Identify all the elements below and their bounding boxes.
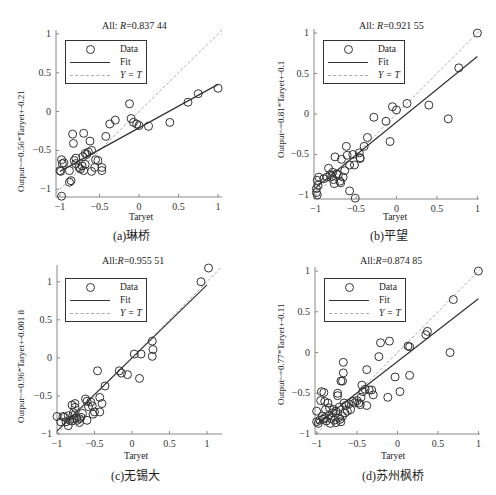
x-axis-label: Taryet xyxy=(381,451,405,461)
svg-text:1: 1 xyxy=(47,276,52,287)
svg-text:1: 1 xyxy=(304,27,309,38)
svg-text:1: 1 xyxy=(476,438,481,449)
legend: Data Fit Y = T xyxy=(65,278,147,322)
legend-item-fit: Fit xyxy=(328,56,400,69)
svg-text:0: 0 xyxy=(395,438,400,449)
legend-item-fit: Fit xyxy=(70,56,142,69)
chart-panel-a: All: R=0.837 44 −1−0.500.51−1−0.500.51 O… xyxy=(0,0,248,247)
y-axis-label: Output~=0.56*Taryet+-0.21 xyxy=(16,90,26,192)
solid-line-icon xyxy=(328,62,368,63)
x-axis-label: Taryet xyxy=(383,212,407,222)
svg-text:0.5: 0.5 xyxy=(298,306,311,317)
svg-text:−0.5: −0.5 xyxy=(85,438,103,449)
legend: Data Fit Y = T xyxy=(324,278,406,322)
svg-text:−1: −1 xyxy=(298,189,309,200)
plot-area: −1−0.500.51−1−0.500.51 xyxy=(0,0,248,247)
svg-text:1: 1 xyxy=(305,265,310,276)
svg-text:0.5: 0.5 xyxy=(431,203,444,214)
dashed-line-icon xyxy=(329,313,369,314)
chart-panel-d: All:R=0.874 85 −1−0.500.51−1−0.500.51 Ou… xyxy=(250,245,496,492)
svg-text:0: 0 xyxy=(137,201,142,212)
svg-text:0: 0 xyxy=(47,352,52,363)
svg-text:−1: −1 xyxy=(299,428,310,439)
circle-marker-icon xyxy=(86,45,95,54)
plot-area: −1−0.500.51−1−0.500.51 xyxy=(250,0,496,247)
svg-text:−0.5: −0.5 xyxy=(90,201,108,212)
svg-text:−0.5: −0.5 xyxy=(33,144,51,155)
solid-line-icon xyxy=(329,300,369,301)
dashed-line-icon xyxy=(70,75,110,76)
legend: Data Fit Y = T xyxy=(65,40,147,84)
legend: Data Fit Y = T xyxy=(323,40,405,84)
svg-text:1: 1 xyxy=(205,438,210,449)
legend-item-fit: Fit xyxy=(70,294,142,307)
y-axis-label: Output~=0.96*Taryet+-0.001 8 xyxy=(16,310,26,423)
svg-text:−1: −1 xyxy=(311,438,322,449)
svg-text:0: 0 xyxy=(304,108,309,119)
legend-item-ideal: Y = T xyxy=(70,69,142,82)
chart-panel-c: All:R=0.955 51 −1−0.500.51−1−0.500.51 Ou… xyxy=(0,245,248,492)
svg-text:−1: −1 xyxy=(55,201,66,212)
legend-item-data: Data xyxy=(70,281,142,294)
svg-text:1: 1 xyxy=(216,201,221,212)
x-axis-label: Taryet xyxy=(129,212,153,222)
legend-item-data: Data xyxy=(70,43,142,56)
svg-text:−0.5: −0.5 xyxy=(292,387,310,398)
solid-line-icon xyxy=(70,62,110,63)
legend-item-data: Data xyxy=(329,281,401,294)
y-axis-label: Output~=0.77*Taryet+-0.11 xyxy=(276,303,286,405)
svg-text:0.5: 0.5 xyxy=(297,68,310,79)
svg-text:0: 0 xyxy=(46,106,51,117)
chart-caption: (b)平望 xyxy=(370,226,408,244)
chart-caption: (d)苏州枫桥 xyxy=(362,466,424,484)
legend-item-ideal: Y = T xyxy=(328,69,400,82)
svg-text:1: 1 xyxy=(475,203,480,214)
legend-item-fit: Fit xyxy=(329,294,401,307)
svg-text:1: 1 xyxy=(46,28,51,39)
solid-line-icon xyxy=(70,300,110,301)
svg-text:−1: −1 xyxy=(310,203,321,214)
svg-text:−0.5: −0.5 xyxy=(291,148,309,159)
circle-marker-icon xyxy=(86,283,95,292)
svg-text:−1: −1 xyxy=(40,183,51,194)
legend-item-ideal: Y = T xyxy=(329,307,401,320)
svg-text:0.5: 0.5 xyxy=(432,438,445,449)
chart-caption: (c)无锡大 xyxy=(111,466,160,484)
y-axis-label: Output~=0.81*Taryet+-0.1 xyxy=(276,61,286,158)
svg-text:−1: −1 xyxy=(52,438,63,449)
svg-text:0: 0 xyxy=(305,347,310,358)
chart-caption: (a)琳桥 xyxy=(113,226,150,244)
svg-text:0.5: 0.5 xyxy=(172,201,185,212)
svg-text:0.5: 0.5 xyxy=(39,67,52,78)
svg-text:0.5: 0.5 xyxy=(40,314,53,325)
dashed-line-icon xyxy=(328,75,368,76)
svg-text:−0.5: −0.5 xyxy=(34,390,52,401)
circle-marker-icon xyxy=(345,283,354,292)
svg-text:0.5: 0.5 xyxy=(163,438,176,449)
chart-panel-b: All: R=0.921 55 −1−0.500.51−1−0.500.51 O… xyxy=(250,0,496,247)
legend-item-ideal: Y = T xyxy=(70,307,142,320)
svg-text:−0.5: −0.5 xyxy=(348,438,366,449)
circle-marker-icon xyxy=(344,45,353,54)
svg-text:−0.5: −0.5 xyxy=(347,203,365,214)
svg-text:−1: −1 xyxy=(41,428,52,439)
dashed-line-icon xyxy=(70,313,110,314)
svg-text:0: 0 xyxy=(130,438,135,449)
x-axis-label: Taryet xyxy=(124,451,148,461)
legend-item-data: Data xyxy=(328,43,400,56)
